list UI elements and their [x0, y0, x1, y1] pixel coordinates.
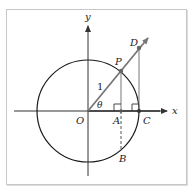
label-B: B — [118, 153, 126, 164]
label-y-axis: y — [84, 11, 91, 22]
label-C: C — [143, 115, 151, 126]
label-P: P — [114, 56, 122, 67]
label-radius: 1 — [97, 81, 103, 92]
label-theta: θ — [97, 100, 103, 110]
point-C — [137, 109, 141, 113]
label-D: D — [129, 37, 138, 48]
point-A — [119, 109, 123, 113]
label-origin: O — [76, 115, 84, 126]
unit-circle-diagram: y x O P D A C B 1 θ — [0, 0, 194, 192]
point-P — [119, 69, 123, 73]
label-A: A — [112, 115, 120, 126]
label-x-axis: x — [172, 105, 178, 116]
